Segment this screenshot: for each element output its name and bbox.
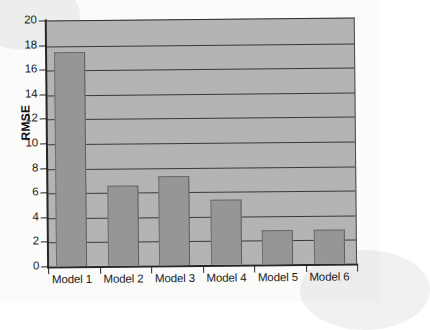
- x-tick-label: Model 1: [46, 273, 98, 285]
- y-tick-label: 2: [13, 235, 39, 247]
- y-tick-mark: [40, 143, 47, 144]
- x-tick-label: Model 6: [304, 270, 356, 282]
- y-tick-label: 6: [12, 186, 38, 198]
- y-tick-mark: [39, 70, 46, 71]
- bar-layer: [0, 0, 379, 2]
- y-tick-mark: [39, 94, 46, 95]
- gridline: [47, 117, 355, 121]
- y-tick-mark: [39, 20, 46, 21]
- y-tick-mark: [40, 168, 47, 169]
- x-tick-mark: [357, 264, 358, 271]
- bar-4: [210, 199, 242, 264]
- y-tick-layer: 02468101214161820: [0, 0, 379, 2]
- y-tick-mark: [41, 266, 48, 267]
- y-axis-title: RMSE: [18, 105, 32, 141]
- y-tick-mark: [40, 193, 47, 194]
- gridline: [47, 166, 355, 170]
- gridline: [48, 215, 356, 219]
- gridline-layer: [46, 18, 356, 266]
- y-tick-label: 16: [11, 63, 37, 75]
- y-tick-label: 0: [13, 259, 39, 271]
- y-tick-mark: [40, 119, 47, 120]
- bar-2: [107, 186, 139, 266]
- bar-chart-figure: 02468101214161820 Model 1Model 2Model 3M…: [0, 0, 381, 304]
- bar-5: [262, 230, 293, 265]
- gridline: [46, 92, 354, 96]
- x-tick-layer: [0, 0, 379, 2]
- gridline: [47, 141, 355, 145]
- bar-6: [314, 229, 345, 264]
- x-label-layer: Model 1Model 2Model 3Model 4Model 5Model…: [0, 0, 379, 2]
- y-tick-label: 14: [11, 87, 37, 99]
- y-tick-label: 18: [11, 38, 37, 50]
- y-tick-mark: [41, 242, 48, 243]
- y-tick-label: 4: [13, 210, 39, 222]
- gridline: [47, 191, 355, 195]
- y-tick-mark: [41, 217, 48, 218]
- gridline: [48, 240, 356, 244]
- x-tick-label: Model 2: [98, 272, 150, 284]
- x-tick-label: Model 3: [149, 272, 201, 284]
- x-tick-label: Model 5: [252, 271, 304, 283]
- y-tick-mark: [39, 45, 46, 46]
- bar-1: [54, 52, 87, 266]
- x-tick-label: Model 4: [201, 271, 253, 283]
- y-tick-label: 20: [11, 13, 37, 25]
- plot-area: [46, 17, 357, 266]
- gridline: [46, 68, 354, 72]
- bar-3: [158, 176, 190, 265]
- gridline: [46, 43, 354, 47]
- y-tick-label: 8: [12, 161, 38, 173]
